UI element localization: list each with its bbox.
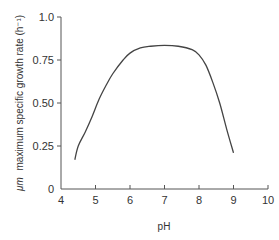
- y-tick-label: 0.75: [33, 54, 54, 66]
- x-tick-label: 6: [127, 194, 133, 206]
- y-axis-title: μm maximum specific growth rate (h⁻¹): [14, 15, 25, 192]
- y-tick-label: 0.50: [33, 97, 54, 109]
- y-axis-symbol: μm: [14, 177, 25, 192]
- chart: 45678910 00.250.500.751.0 pH μm maximum …: [0, 0, 279, 240]
- x-tick-label: 5: [92, 194, 98, 206]
- x-tick-label: 10: [262, 194, 274, 206]
- x-tick-label: 9: [230, 194, 236, 206]
- x-tick-label: 7: [161, 194, 167, 206]
- y-tick-label: 1.0: [39, 11, 54, 23]
- axes: [61, 17, 268, 189]
- x-axis-title: pH: [158, 221, 171, 232]
- y-tick-label: 0: [48, 183, 54, 195]
- x-tick-label: 4: [58, 194, 64, 206]
- growth-rate-curve: [75, 45, 234, 159]
- x-tick-label: 8: [196, 194, 202, 206]
- y-tick-label: 0.25: [33, 140, 54, 152]
- y-axis-label: maximum specific growth rate (h⁻¹): [14, 15, 25, 171]
- y-ticks: 00.250.500.751.0: [33, 11, 61, 195]
- x-ticks: 45678910: [58, 185, 274, 206]
